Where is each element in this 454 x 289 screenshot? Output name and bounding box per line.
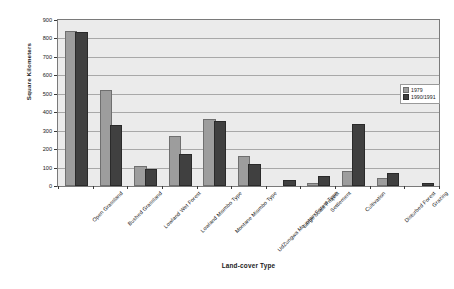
x-axis-tick-mark	[93, 186, 94, 189]
x-axis-tick-mark	[439, 186, 440, 189]
x-axis-tick-mark	[231, 186, 232, 189]
x-axis-tick-mark	[404, 186, 405, 189]
legend-label: 1990/1991	[411, 94, 436, 100]
x-axis-category-labels: Open GrasslandBushed GrasslandLowland We…	[58, 190, 439, 252]
bar	[214, 121, 226, 186]
x-axis-tick-mark	[197, 186, 198, 189]
x-axis-category-label: Lowland Wet Forest	[163, 190, 202, 229]
x-axis-title: Land-cover Type	[57, 262, 440, 269]
x-axis-tick-mark	[335, 186, 336, 189]
bar-group	[335, 20, 370, 186]
bar-group	[300, 20, 335, 186]
x-axis-tick-mark	[58, 186, 59, 189]
bar	[318, 176, 330, 186]
x-axis-tick-mark	[266, 186, 267, 189]
x-axis-category-label: Bushed Grassland	[127, 190, 164, 227]
bar-group	[127, 20, 162, 186]
y-axis-tick-label: 0	[4, 183, 52, 189]
x-axis-tick-mark	[370, 186, 371, 189]
y-axis-tick-label: 200	[4, 146, 52, 152]
y-axis-tick-label: 600	[4, 72, 52, 78]
x-axis-tick-mark	[162, 186, 163, 189]
bar	[352, 124, 364, 186]
legend-swatch-icon	[403, 94, 409, 100]
bar	[387, 173, 399, 186]
y-axis-tick-label: 900	[4, 17, 52, 23]
bar-groups	[58, 20, 439, 186]
legend: 1979 1990/1991	[400, 84, 440, 104]
bar	[145, 169, 157, 186]
bar	[248, 164, 260, 186]
legend-item: 1979	[403, 87, 436, 94]
legend-item: 1990/1991	[403, 94, 436, 101]
bar-group	[197, 20, 232, 186]
y-axis-tick-label: 400	[4, 109, 52, 115]
bar-chart-figure: Square Kilometers 0100200300400500600700…	[0, 0, 454, 289]
legend-swatch-icon	[403, 87, 409, 93]
y-axis-tick-label: 700	[4, 54, 52, 60]
bar	[422, 183, 434, 186]
bar-group	[162, 20, 197, 186]
bar	[110, 125, 122, 186]
y-axis-tick-label: 300	[4, 128, 52, 134]
x-axis-category-label: Disturbed Forest	[403, 190, 437, 224]
bar-group	[93, 20, 128, 186]
y-axis-tick-label: 800	[4, 35, 52, 41]
bar	[283, 180, 295, 186]
x-axis-tick-mark	[127, 186, 128, 189]
bar	[75, 32, 87, 186]
y-axis-tick-label: 100	[4, 165, 52, 171]
y-axis-tick-label: 500	[4, 91, 52, 97]
x-axis-category-label: Cultivation	[364, 190, 387, 213]
x-axis-tick-mark	[300, 186, 301, 189]
bar-group	[58, 20, 93, 186]
bar	[179, 154, 191, 186]
bar-group	[231, 20, 266, 186]
bar-group	[266, 20, 301, 186]
legend-label: 1979	[411, 87, 423, 93]
x-axis-category-label: Open Grassland	[91, 190, 124, 223]
